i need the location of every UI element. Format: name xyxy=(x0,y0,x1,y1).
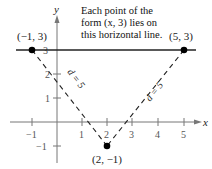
distance-label-right: d = 5 xyxy=(143,79,165,103)
x-axis-arrow-icon xyxy=(194,120,202,125)
point-bottom xyxy=(104,143,111,150)
point-right xyxy=(181,47,188,54)
annotation-line: this horizontal line. xyxy=(81,29,201,41)
point-label-left: (−1, 3) xyxy=(17,30,47,43)
y-axis-label: y xyxy=(53,3,59,15)
horizontal-line-annotation: Each point of the form (x, 3) lies on th… xyxy=(81,5,201,41)
x-tick-label: 5 xyxy=(181,129,186,140)
annotation-line: form (x, 3) lies on xyxy=(81,17,201,29)
x-tick-label: 2 xyxy=(104,129,109,140)
x-tick-label: 1 xyxy=(79,129,84,140)
annotation-line: Each point of the xyxy=(81,5,201,17)
y-tick-label: 1 xyxy=(45,93,50,104)
distance-line-left xyxy=(32,50,107,146)
x-axis-label: x xyxy=(202,116,208,128)
y-axis-arrow-icon xyxy=(55,15,60,23)
y-tick-label: −1 xyxy=(36,141,47,152)
distance-label-left: d = 5 xyxy=(65,66,87,90)
x-tick-label: −1 xyxy=(26,129,37,140)
point-left xyxy=(29,47,36,54)
point-label-bottom: (2, −1) xyxy=(92,153,122,166)
x-tick-label: 4 xyxy=(155,129,160,140)
y-tick-label: 2 xyxy=(45,69,50,80)
x-tick-label: 3 xyxy=(129,129,134,140)
